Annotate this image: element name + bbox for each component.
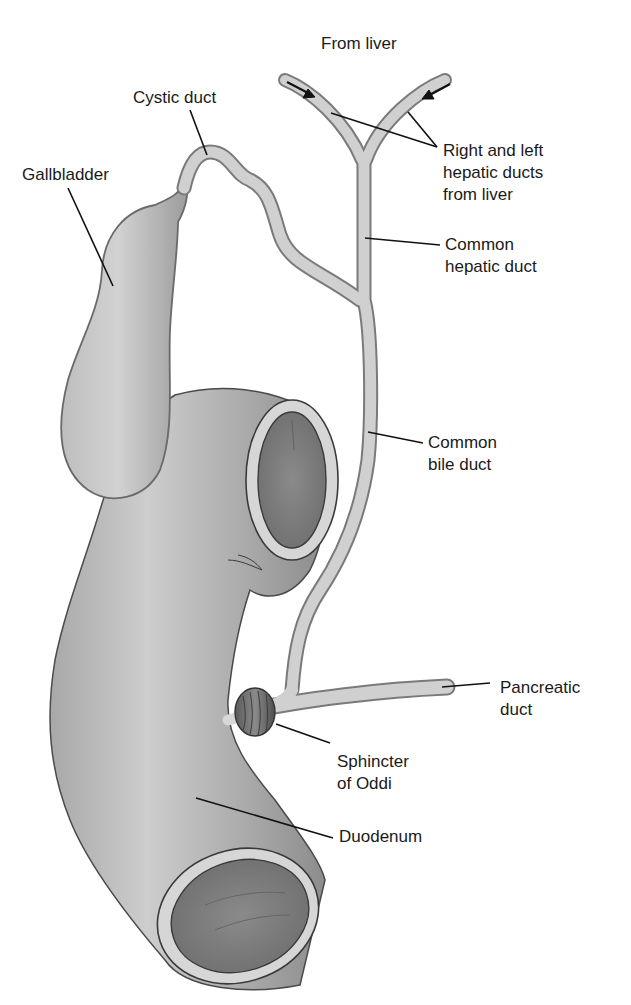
leader-common-hepatic (365, 238, 440, 245)
label-cystic-duct: Cystic duct (133, 87, 216, 109)
label-from-liver: From liver (321, 33, 397, 55)
label-common-bile-duct: Common bile duct (428, 432, 497, 476)
sphincter-of-oddi (235, 688, 275, 736)
label-gallbladder: Gallbladder (22, 164, 109, 186)
label-common-hepatic-duct: Common hepatic duct (445, 234, 537, 278)
label-sphincter-of-oddi: Sphincter of Oddi (337, 751, 409, 795)
leader-sphincter (276, 724, 330, 743)
label-duodenum: Duodenum (339, 826, 422, 848)
label-hepatic-ducts: Right and left hepatic ducts from liver (443, 140, 543, 206)
leader-gallbladder (68, 188, 113, 286)
label-pancreatic-duct: Pancreatic duct (500, 677, 580, 721)
